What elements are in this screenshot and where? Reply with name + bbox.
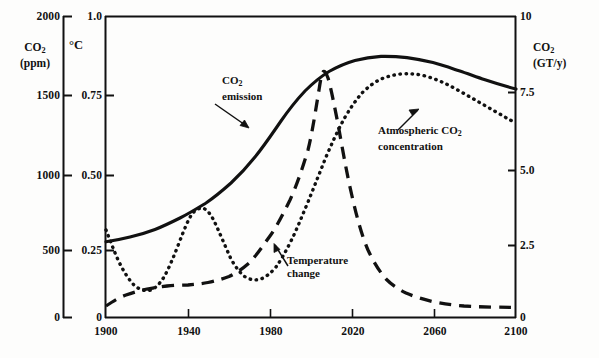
co2-emission-arrow-head bbox=[240, 120, 249, 128]
left-outer-axis-label-main: CO bbox=[24, 41, 41, 53]
annotation-co2-emission: CO2 emission bbox=[222, 74, 262, 103]
left-outer-ticklabel-1500: 1500 bbox=[8, 89, 60, 101]
annotation-atmospheric-co2-line2: concentration bbox=[378, 140, 443, 152]
annotation-co2-emission-main: CO bbox=[222, 74, 239, 86]
x-ticklabel-1980: 1980 bbox=[249, 325, 293, 337]
x-ticklabel-1940: 1940 bbox=[167, 325, 211, 337]
annotation-temperature-change-line2: change bbox=[287, 267, 320, 279]
annotation-atmospheric-co2: Atmospheric CO2 concentration bbox=[378, 124, 462, 153]
left-outer-axis-label-unit: (ppm) bbox=[20, 57, 50, 69]
annotation-atmospheric-co2-line1: Atmospheric CO bbox=[378, 124, 458, 136]
annotation-atmospheric-co2-sub: 2 bbox=[458, 129, 462, 138]
left-inner-ticklabel-075: 0.75 bbox=[58, 89, 102, 101]
left-outer-ticklabel-500: 500 bbox=[8, 244, 60, 256]
annotation-temperature-change-line1: Temperature bbox=[287, 254, 348, 266]
left-inner-axis-label: °C bbox=[69, 38, 83, 53]
right-axis-label-main: CO bbox=[533, 41, 550, 53]
right-axis-label-sub: 2 bbox=[550, 46, 554, 55]
left-outer-ticklabel-1000: 1000 bbox=[8, 169, 60, 181]
right-ticklabel-25: 2.5 bbox=[520, 239, 566, 251]
right-axis-label-unit: (GT/y) bbox=[533, 57, 566, 69]
x-ticklabel-2060: 2060 bbox=[413, 325, 457, 337]
right-ticklabel-0: 0 bbox=[520, 311, 566, 323]
left-outer-axis-label: CO2 (ppm) bbox=[8, 41, 62, 70]
right-ticklabel-75: 7.5 bbox=[520, 86, 566, 98]
annotation-co2-emission-rest: emission bbox=[222, 90, 262, 102]
left-outer-axis bbox=[63, 16, 72, 318]
left-outer-ticklabel-2000: 2000 bbox=[8, 10, 60, 22]
left-inner-ticklabel-050: 0.50 bbox=[58, 169, 102, 181]
annotation-temperature-change: Temperature change bbox=[287, 254, 348, 280]
right-ticklabel-10: 10 bbox=[520, 10, 566, 22]
atmospheric-co2-arrow-head bbox=[409, 109, 419, 116]
left-inner-ticklabel-0: 0 bbox=[58, 311, 102, 323]
right-ticklabel-50: 5.0 bbox=[520, 164, 566, 176]
x-ticklabel-2100: 2100 bbox=[494, 325, 538, 337]
left-outer-ticklabel-0: 0 bbox=[8, 311, 60, 323]
right-axis-label: CO2 (GT/y) bbox=[533, 41, 591, 70]
chart-figure: 2000 1500 1000 500 0 CO2 (ppm) 1.0 0.75 … bbox=[0, 0, 599, 358]
left-outer-axis-label-sub: 2 bbox=[42, 46, 46, 55]
x-ticklabel-2020: 2020 bbox=[331, 325, 375, 337]
left-inner-ticklabel-025: 0.25 bbox=[58, 244, 102, 256]
x-ticklabel-1900: 1900 bbox=[84, 325, 128, 337]
left-inner-ticklabel-1: 1.0 bbox=[58, 10, 102, 22]
annotation-co2-emission-sub: 2 bbox=[239, 79, 243, 88]
